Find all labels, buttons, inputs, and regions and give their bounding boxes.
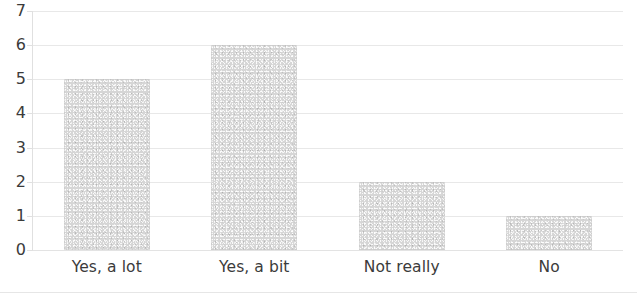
bar <box>359 182 445 250</box>
x-axis-category-label: Not really <box>328 258 476 276</box>
y-axis-tick-label: 6 <box>2 37 26 53</box>
bottom-border-rule <box>0 292 637 293</box>
x-axis-category-label: Yes, a lot <box>33 258 181 276</box>
y-axis-tick-labels: 01234567 <box>0 0 26 300</box>
gridline <box>33 250 623 251</box>
y-axis-tick-label: 0 <box>2 242 26 258</box>
y-axis-tick-label: 2 <box>2 174 26 190</box>
y-axis-tick-mark <box>27 216 33 217</box>
bar <box>506 216 592 250</box>
y-axis-tick-label: 5 <box>2 71 26 87</box>
gridline <box>33 11 623 12</box>
y-axis-tick-mark <box>27 148 33 149</box>
y-axis-tick-mark <box>27 113 33 114</box>
y-axis-tick-label: 1 <box>2 208 26 224</box>
y-axis-tick-label: 7 <box>2 3 26 19</box>
plot-area <box>33 11 623 250</box>
x-axis-category-labels: Yes, a lotYes, a bitNot reallyNo <box>33 258 623 284</box>
y-axis-tick-mark <box>27 45 33 46</box>
y-axis-tick-mark <box>27 79 33 80</box>
bar <box>211 45 297 250</box>
y-axis-tick-mark <box>27 11 33 12</box>
x-axis-category-label: No <box>476 258 624 276</box>
bar <box>64 79 150 250</box>
y-axis-tick-label: 4 <box>2 105 26 121</box>
gridline <box>33 45 623 46</box>
y-axis-tick-label: 3 <box>2 140 26 156</box>
y-axis-tick-mark <box>27 250 33 251</box>
y-axis-tick-mark <box>27 182 33 183</box>
x-axis-category-label: Yes, a bit <box>181 258 329 276</box>
bar-chart-figure: 01234567 Yes, a lotYes, a bitNot reallyN… <box>0 0 637 300</box>
